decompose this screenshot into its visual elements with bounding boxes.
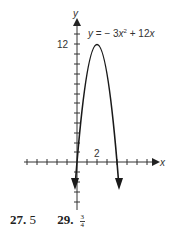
x-tick-label-2: 2 [94, 148, 100, 159]
fraction: 3 4 [80, 214, 85, 229]
answer-27: 27. 5 [10, 212, 36, 228]
equation-label: y = − 3x2 + 12x [87, 28, 155, 39]
answers-row: 27. 5 29. 3 4 [10, 212, 103, 229]
answer-29: 29. 3 4 [57, 212, 85, 229]
y-tick-label-12: 12 [57, 39, 69, 50]
parabola-curve [75, 45, 119, 188]
y-axis-label: y [72, 8, 79, 19]
curve-arrow-right-icon [115, 178, 123, 190]
x-axis-label: x [159, 157, 166, 168]
curve-arrow-left-icon [71, 178, 79, 190]
parabola-graph: x 2 y 12 y = − 3x2 + 12x [0, 0, 178, 215]
